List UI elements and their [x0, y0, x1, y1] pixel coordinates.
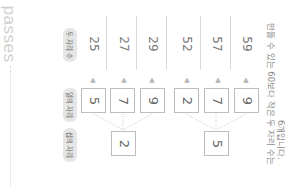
separator	[200, 16, 201, 70]
tens-digit-box: 2	[111, 131, 136, 156]
separator	[230, 16, 231, 70]
caption-line-2: 6개입니다.	[272, 115, 285, 165]
up-arrow-icon: ▲	[89, 76, 97, 84]
ones-digit-box: 5	[81, 88, 106, 113]
ones-digit-box: 7	[110, 88, 135, 113]
ones-digit-box: 9	[234, 88, 259, 113]
up-arrow-icon: ▲	[183, 76, 191, 84]
up-arrow-icon: ▲	[242, 76, 250, 84]
result-number: 29	[141, 30, 165, 58]
result-number: 52	[175, 30, 199, 58]
up-arrow-icon: ▲	[148, 76, 156, 84]
ones-digit-box: 7	[204, 88, 229, 113]
ones-digit-box: 2	[174, 88, 199, 113]
separator	[106, 16, 107, 70]
result-number: 25	[82, 30, 106, 58]
up-arrow-icon: ▲	[214, 76, 222, 84]
result-number: 27	[112, 30, 136, 58]
result-number: 57	[205, 30, 229, 58]
up-arrow-icon: ▲	[120, 76, 128, 84]
ones-digit-box: 9	[140, 88, 165, 113]
result-number: 59	[235, 30, 259, 58]
tens-digit-box: 5	[204, 131, 229, 156]
separator	[136, 16, 137, 70]
separator	[166, 16, 167, 70]
